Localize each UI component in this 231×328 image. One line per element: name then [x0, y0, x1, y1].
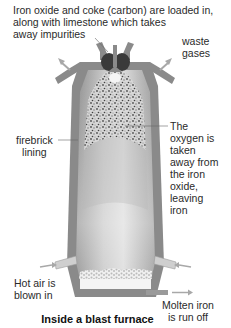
label-firebrick: firebrick lining [16, 134, 53, 158]
waste-gas-arrow-right [160, 63, 168, 70]
diagram-title: Inside a blast furnace [0, 313, 213, 325]
tap-hole [146, 290, 168, 295]
slag-layer [79, 268, 152, 279]
label-waste-gases: waste gases [182, 35, 210, 59]
waste-gas-arrow-left [62, 63, 70, 70]
label-oxygen: The oxygen is taken away from the iron o… [170, 120, 218, 216]
molten-iron [80, 279, 151, 289]
label-hot-air: Hot air is blown in [14, 277, 55, 301]
